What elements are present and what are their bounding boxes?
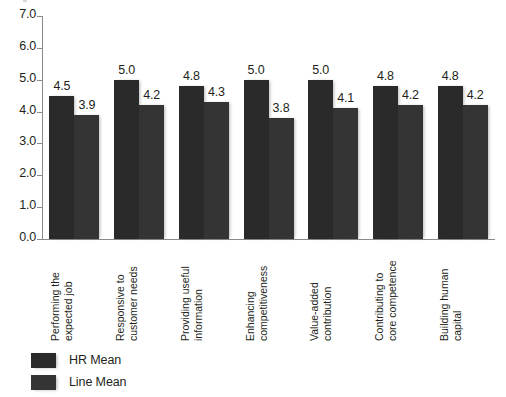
bar-group: 4.53.9 [49, 16, 99, 239]
y-axis-tick-label: 4.0 [19, 103, 36, 117]
x-axis-category-label: Providing useful information [179, 243, 229, 343]
x-axis-category-label-text: Providing useful information [179, 243, 229, 343]
x-axis-category-label-text: Performing the expected job [49, 243, 99, 343]
x-axis-category-label-text: Enhancing competitiveness [244, 243, 294, 343]
bar-value-label: 3.8 [269, 101, 294, 115]
x-axis-category-label: Enhancing competitiveness [244, 243, 294, 343]
legend-item: Line Mean [31, 373, 126, 391]
bar-group: 4.84.2 [438, 16, 488, 239]
bar-value-label: 4.2 [139, 88, 164, 102]
bar: 5.0 [114, 80, 139, 239]
bar: 4.3 [204, 102, 229, 239]
x-axis-category-label: Contributing to core competence [373, 243, 423, 343]
bar: 4.8 [179, 86, 204, 239]
bar-group: 5.04.2 [114, 16, 164, 239]
y-axis-tick-label: 1.0 [19, 198, 36, 212]
bar-value-label: 4.2 [463, 88, 488, 102]
legend-label: HR Mean [69, 353, 121, 367]
top-edge-artifact [23, 0, 27, 2]
x-axis-category-labels: Performing the expected jobResponsive to… [42, 243, 495, 343]
bar-value-label: 4.3 [204, 85, 229, 99]
legend-color-swatch [31, 375, 56, 390]
x-axis-category-label-text: Value-added contribution [308, 243, 358, 343]
bar-value-label: 3.9 [74, 98, 99, 112]
bar: 4.2 [463, 105, 488, 239]
bar-value-label: 5.0 [114, 63, 139, 77]
bar: 4.5 [49, 96, 74, 239]
x-axis-category-label-text: Building human capital [438, 243, 488, 343]
bar-value-label: 5.0 [308, 63, 333, 77]
bar: 3.9 [74, 115, 99, 239]
y-axis-tick-label: 7.0 [19, 7, 36, 21]
bar-group: 5.03.8 [244, 16, 294, 239]
bar-group: 4.84.3 [179, 16, 229, 239]
bar-value-label: 4.8 [373, 69, 398, 83]
bar: 4.1 [333, 108, 358, 239]
x-axis-category-label: Performing the expected job [49, 243, 99, 343]
bar: 5.0 [244, 80, 269, 239]
bar-value-label: 4.2 [398, 88, 423, 102]
legend-label: Line Mean [69, 375, 126, 389]
bar-value-label: 4.8 [179, 69, 204, 83]
bar-value-label: 4.5 [49, 79, 74, 93]
x-axis-category-label-text: Contributing to core competence [373, 243, 423, 343]
x-axis-category-label: Responsive to customer needs [114, 243, 164, 343]
y-axis-tick-label: 5.0 [19, 71, 36, 85]
bar-group: 5.04.1 [308, 16, 358, 239]
bar: 4.8 [373, 86, 398, 239]
bar: 4.2 [398, 105, 423, 239]
x-axis-baseline [42, 239, 495, 240]
y-axis-tick-label: 6.0 [19, 39, 36, 53]
bar-value-label: 5.0 [244, 63, 269, 77]
y-axis-tick-label: 2.0 [19, 166, 36, 180]
x-axis-category-label: Value-added contribution [308, 243, 358, 343]
bar: 4.2 [139, 105, 164, 239]
chart-legend: HR MeanLine Mean [31, 351, 126, 395]
bar-value-label: 4.1 [333, 91, 358, 105]
bar: 4.8 [438, 86, 463, 239]
x-axis-category-label: Building human capital [438, 243, 488, 343]
bar: 5.0 [308, 80, 333, 239]
bar-value-label: 4.8 [438, 69, 463, 83]
y-axis-tick-label: 3.0 [19, 134, 36, 148]
legend-item: HR Mean [31, 351, 126, 369]
bar: 3.8 [269, 118, 294, 239]
plot-area: 4.53.95.04.24.84.35.03.85.04.14.84.24.84… [42, 16, 495, 239]
y-axis-tick-label: 0.0 [19, 230, 36, 244]
x-axis-category-label-text: Responsive to customer needs [114, 243, 164, 343]
bar-chart: 7.06.05.04.03.02.01.00.0 4.53.95.04.24.8… [0, 0, 506, 397]
legend-color-swatch [31, 353, 56, 368]
bar-group: 4.84.2 [373, 16, 423, 239]
